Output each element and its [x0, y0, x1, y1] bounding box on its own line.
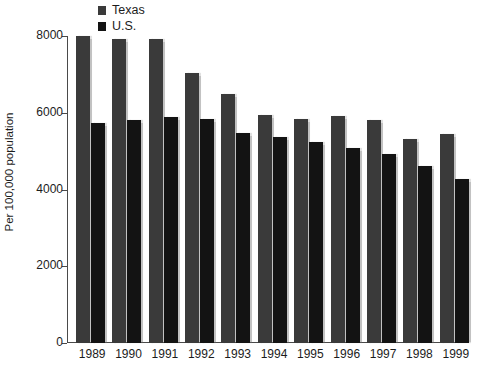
legend-item-u-s: U.S.	[98, 19, 218, 34]
legend-swatch-icon	[98, 22, 106, 31]
bar-texas-1994	[258, 115, 272, 343]
bar-texas-1991	[149, 39, 163, 343]
bar-texas-1998	[403, 139, 417, 343]
bar-us-1997	[382, 154, 396, 343]
plot-area: 02000400060008000 1989199019911992199319…	[67, 36, 467, 343]
bar-chart: TexasU.S. Per 100,000 population 0200040…	[0, 0, 480, 388]
y-tick-label: 2000	[36, 258, 63, 272]
bar-texas-1997	[367, 120, 381, 343]
bar-us-1992	[200, 119, 214, 343]
x-tick-label: 1999	[434, 347, 478, 361]
bar-group	[183, 36, 219, 343]
bar-group	[438, 36, 474, 343]
y-tick-label: 4000	[36, 182, 63, 196]
y-axis-title-text: Per 100,000 population	[3, 112, 15, 231]
bar-texas-1989	[76, 36, 90, 343]
bar-group	[110, 36, 146, 343]
y-tick-label: 6000	[36, 105, 63, 119]
legend-label: U.S.	[112, 20, 136, 33]
bar-texas-1996	[331, 116, 345, 343]
bar-group	[147, 36, 183, 343]
bar-us-1999	[455, 179, 469, 343]
legend-label: Texas	[112, 4, 145, 17]
y-axis-title: Per 100,000 population	[0, 0, 18, 343]
bar-us-1994	[273, 137, 287, 343]
bar-us-1989	[91, 123, 105, 343]
legend-item-texas: Texas	[98, 3, 218, 18]
bar-texas-1992	[185, 73, 199, 343]
y-axis-line	[67, 36, 68, 343]
bar-texas-1990	[112, 39, 126, 343]
bar-texas-1999	[440, 134, 454, 343]
bar-group	[74, 36, 110, 343]
chart-legend: TexasU.S.	[98, 3, 218, 35]
bar-group	[329, 36, 365, 343]
bar-us-1991	[164, 117, 178, 343]
bar-us-1995	[309, 142, 323, 343]
bar-texas-1995	[294, 119, 308, 343]
legend-swatch-icon	[98, 6, 106, 15]
bar-group	[256, 36, 292, 343]
bar-texas-1993	[221, 94, 235, 343]
bar-group	[292, 36, 328, 343]
bar-us-1998	[418, 166, 432, 343]
bar-group	[219, 36, 255, 343]
y-tick-label: 8000	[36, 28, 63, 42]
bar-us-1990	[127, 120, 141, 343]
y-tick-label: 0	[56, 335, 63, 349]
bar-us-1993	[236, 133, 250, 343]
bar-group	[401, 36, 437, 343]
bar-group	[365, 36, 401, 343]
bar-us-1996	[346, 148, 360, 343]
